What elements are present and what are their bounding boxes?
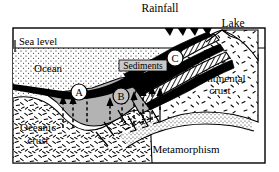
marker-b: B [113,88,129,104]
rainfall-label: Rainfall [141,2,178,14]
lake-label: Lake [222,17,245,29]
marker-c: C [167,50,183,66]
marker-a-label: A [75,87,83,98]
continental-crust-label-line2: crust [209,84,230,96]
geology-cross-section: Rainfall Lake Sea level Ocean Sediments … [0,0,279,172]
marker-c-label: C [171,53,178,64]
ocean-label: Ocean [34,62,63,74]
sea-level-label: Sea level [19,36,57,47]
oceanic-crust-label-line2: crust [27,134,48,146]
sediments-label-group: Sediments [119,60,167,71]
marker-b-label: B [117,91,124,102]
sediments-label: Sediments [123,61,163,71]
metamorphism-label: Metamorphism [152,143,220,155]
marker-a: A [71,84,87,100]
continental-crust-label-line1: Continental [194,72,245,84]
oceanic-crust-label-line1: Oceanic [20,121,56,133]
diagram-canvas: Rainfall Lake Sea level Ocean Sediments … [0,0,279,172]
